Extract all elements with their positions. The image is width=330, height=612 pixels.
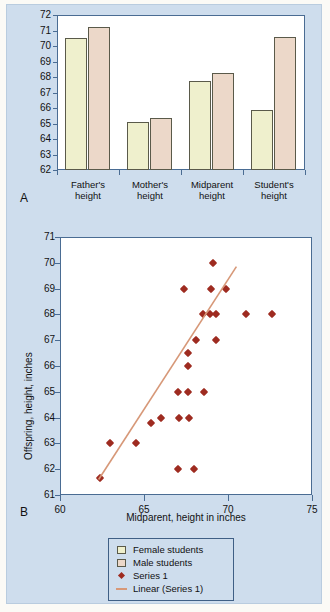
scatter-x-tick-mark	[144, 495, 145, 501]
bar-y-tick-label: 70	[23, 41, 51, 51]
scatter-x-tick-mark	[312, 495, 313, 501]
bar-y-tick-label: 64	[23, 134, 51, 144]
legend-swatch-icon	[115, 545, 128, 554]
diamond-icon	[118, 572, 125, 579]
bar-male	[274, 37, 296, 170]
bar-male	[212, 73, 234, 170]
bar-female	[65, 38, 87, 170]
bar-y-tick-mark	[53, 62, 57, 63]
bar-y-tick-mark	[53, 77, 57, 78]
bar-category-tick	[57, 170, 58, 175]
figure-plate: 6263646566676869707172 Father'sheightMot…	[6, 4, 322, 604]
bar-y-tick-label: 66	[23, 103, 51, 113]
bar-category-label: Student'sheight	[238, 179, 310, 201]
legend-item-label: Series 1	[133, 570, 168, 581]
legend-item: Linear (Series 1)	[115, 582, 227, 595]
bar-y-tick-mark	[53, 15, 57, 16]
bar-y-tick-label: 65	[23, 119, 51, 129]
scatter-y-tick-label: 62	[27, 464, 55, 474]
bar-y-tick-mark	[53, 31, 57, 32]
scatter-x-tick-mark	[228, 495, 229, 501]
scatter-y-tick-label: 68	[27, 309, 55, 319]
bar-male	[88, 27, 110, 170]
bar-y-tick-mark	[53, 108, 57, 109]
bar-category-tick	[119, 170, 120, 175]
panel-b-letter: B	[20, 505, 28, 519]
legend-diamond-icon	[115, 571, 128, 580]
legend-item-label: Linear (Series 1)	[133, 583, 203, 594]
legend-line-icon	[115, 584, 128, 593]
scatter-y-tick-label: 70	[27, 258, 55, 268]
bar-y-tick-mark	[53, 46, 57, 47]
bar-y-tick-label: 63	[23, 150, 51, 160]
bar-y-tick-label: 69	[23, 57, 51, 67]
panel-a-letter: A	[20, 191, 28, 205]
legend-item-label: Male students	[133, 557, 192, 568]
bar-female	[189, 81, 211, 170]
bar-y-tick-mark	[53, 93, 57, 94]
bar-y-tick-mark	[53, 139, 57, 140]
scatter-trendline	[60, 237, 312, 495]
bar-female	[127, 122, 149, 170]
bar-category-tick	[181, 170, 182, 175]
bar-y-tick-mark	[53, 155, 57, 156]
figure-root: 6263646566676869707172 Father'sheightMot…	[0, 0, 330, 612]
legend-item: Female students	[115, 543, 227, 556]
legend-item: Series 1	[115, 569, 227, 582]
bar-y-tick-label: 72	[23, 10, 51, 20]
scatter-x-axis-title: Midparent, height in inches	[60, 512, 312, 523]
panel-a-bar-chart: 6263646566676869707172 Father'sheightMot…	[7, 5, 321, 210]
scatter-y-tick-label: 69	[27, 284, 55, 294]
bar-male	[150, 118, 172, 170]
bar-y-tick-label: 67	[23, 88, 51, 98]
scatter-x-tick-mark	[60, 495, 61, 501]
line-segment-icon	[116, 588, 127, 590]
panel-b-scatter-chart: 6162636465666768697071 60657075 Midparen…	[7, 215, 321, 535]
legend-item-label: Female students	[133, 544, 203, 555]
bar-y-tick-mark	[53, 124, 57, 125]
figure-legend: Female studentsMale studentsSeries 1Line…	[108, 538, 234, 601]
swatch-icon	[117, 559, 126, 567]
bar-category-tick	[243, 170, 244, 175]
bar-category-tick-end	[305, 170, 306, 175]
swatch-icon	[117, 546, 126, 554]
bar-female	[251, 110, 273, 170]
legend-swatch-icon	[115, 558, 128, 567]
bar-y-tick-label: 62	[23, 165, 51, 175]
bar-y-tick-label: 68	[23, 72, 51, 82]
bar-y-tick-label: 71	[23, 26, 51, 36]
scatter-y-tick-label: 61	[27, 490, 55, 500]
scatter-y-axis-title: Offspring, height, inches	[23, 352, 34, 460]
scatter-y-tick-label: 67	[27, 335, 55, 345]
legend-item: Male students	[115, 556, 227, 569]
scatter-y-tick-label: 71	[27, 232, 55, 242]
